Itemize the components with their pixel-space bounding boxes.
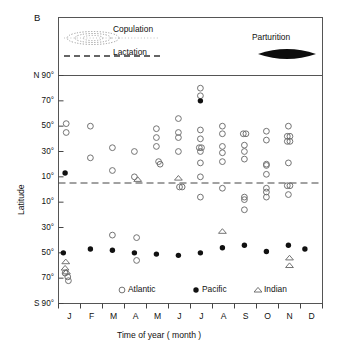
- data-point-pacific: [220, 245, 225, 250]
- data-point-pacific: [132, 250, 137, 255]
- data-point-atlantic: [242, 207, 248, 213]
- data-point-indian: [218, 229, 226, 234]
- legend-label-atlantic: Atlantic: [128, 284, 155, 294]
- data-point-pacific: [154, 251, 159, 256]
- data-point-atlantic: [154, 144, 160, 150]
- breeding-cycle-panel: [59, 18, 323, 76]
- data-point-atlantic: [154, 126, 160, 132]
- x-tick-label: D: [302, 311, 322, 321]
- data-point-atlantic: [242, 149, 248, 155]
- data-point-atlantic: [264, 128, 270, 134]
- data-point-atlantic: [63, 121, 69, 127]
- data-point-atlantic: [198, 127, 204, 133]
- data-point-atlantic: [220, 159, 226, 165]
- data-point-pacific: [264, 249, 269, 254]
- figure-container: B Copulation Lactation Parturition Latit…: [0, 0, 338, 350]
- data-point-atlantic: [110, 168, 116, 174]
- data-point-atlantic: [110, 145, 116, 151]
- data-point-pacific: [286, 243, 291, 248]
- data-point-indian: [286, 263, 294, 268]
- data-point-atlantic: [286, 160, 292, 166]
- data-point-atlantic: [220, 150, 226, 156]
- panel-label: B: [34, 12, 41, 23]
- data-point-pacific: [302, 246, 307, 251]
- data-point-atlantic: [242, 156, 248, 162]
- data-point-pacific: [176, 253, 181, 258]
- y-axis-ticks: [59, 76, 64, 304]
- data-point-atlantic: [286, 123, 292, 129]
- y-tick-label: S 90°: [0, 299, 54, 308]
- x-tick-label: N: [280, 311, 300, 321]
- data-points-group: [61, 85, 308, 283]
- copulation-label: Copulation: [113, 24, 153, 34]
- data-point-atlantic: [198, 174, 204, 180]
- data-point-atlantic: [220, 144, 226, 150]
- y-tick-label: 70°: [0, 273, 54, 282]
- data-point-atlantic: [286, 192, 292, 198]
- y-tick-label: 50°: [0, 121, 54, 130]
- data-point-indian: [134, 177, 142, 182]
- y-tick-label: 10°: [0, 197, 54, 206]
- x-tick-label: J: [60, 311, 80, 321]
- data-point-indian: [62, 259, 70, 264]
- x-tick-label: O: [258, 311, 278, 321]
- data-point-indian: [174, 175, 182, 180]
- legend-label-pacific: Pacific: [202, 284, 227, 294]
- data-point-atlantic: [220, 185, 226, 191]
- legend-marker-indian: [254, 287, 262, 292]
- y-tick-label: N 90°: [0, 71, 54, 80]
- parturition-marker: [258, 49, 316, 59]
- data-point-atlantic: [264, 137, 270, 143]
- data-point-atlantic: [132, 149, 138, 155]
- data-point-atlantic: [134, 258, 140, 264]
- data-point-atlantic: [63, 130, 69, 136]
- legend-label-indian: Indian: [264, 284, 287, 294]
- data-point-atlantic: [110, 232, 116, 238]
- data-point-atlantic: [154, 135, 160, 141]
- data-point-atlantic: [198, 85, 204, 91]
- x-tick-label: M: [104, 311, 124, 321]
- data-point-atlantic: [242, 142, 248, 148]
- x-tick-label: J: [170, 311, 190, 321]
- x-axis-ticks: [59, 304, 323, 309]
- y-tick-label: 70°: [0, 96, 54, 105]
- x-tick-label: A: [126, 311, 146, 321]
- data-point-atlantic: [264, 171, 270, 177]
- x-tick-label: S: [236, 311, 256, 321]
- y-tick-label: 50°: [0, 248, 54, 257]
- legend-marker-atlantic: [119, 287, 125, 293]
- y-tick-label: 10°: [0, 172, 54, 181]
- data-point-atlantic: [220, 131, 226, 137]
- data-point-atlantic: [220, 123, 226, 129]
- data-point-atlantic: [88, 123, 94, 129]
- data-point-atlantic: [198, 93, 204, 99]
- x-tick-label: M: [148, 311, 168, 321]
- data-point-indian: [286, 255, 294, 260]
- y-tick-label: 30°: [0, 147, 54, 156]
- data-point-atlantic: [198, 194, 204, 200]
- data-point-atlantic: [66, 278, 72, 284]
- legend-marker-pacific: [193, 287, 198, 292]
- data-point-atlantic: [176, 116, 182, 122]
- x-tick-label: J: [192, 311, 212, 321]
- data-point-atlantic: [88, 155, 94, 161]
- data-point-atlantic: [198, 149, 204, 155]
- data-point-atlantic: [176, 149, 182, 155]
- y-tick-label: 30°: [0, 223, 54, 232]
- x-tick-label: F: [82, 311, 102, 321]
- parturition-label: Parturition: [252, 32, 290, 42]
- data-point-atlantic: [198, 160, 204, 166]
- data-point-pacific: [242, 243, 247, 248]
- data-point-indian: [61, 265, 69, 270]
- data-point-pacific: [110, 248, 115, 253]
- data-point-atlantic: [198, 136, 204, 142]
- data-point-pacific: [198, 98, 203, 103]
- lactation-label: Lactation: [113, 47, 147, 57]
- plot-frame: [59, 76, 323, 304]
- x-tick-label: A: [214, 311, 234, 321]
- data-point-pacific: [198, 250, 203, 255]
- data-point-pacific: [62, 170, 67, 175]
- data-point-pacific: [61, 250, 66, 255]
- data-point-pacific: [88, 246, 93, 251]
- data-point-atlantic: [134, 235, 140, 241]
